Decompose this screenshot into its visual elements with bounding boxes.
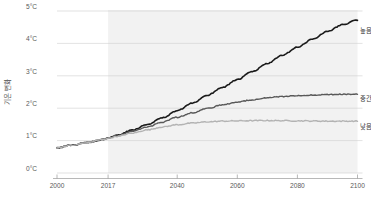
y-tick-label-5: 5°C: [26, 3, 37, 10]
chart-canvas: 0°C1°C2°C3°C4°C5°C 200020172040206020802…: [0, 0, 371, 202]
y-axis-title: 기온 변화: [3, 79, 12, 105]
y-tick-label-0: 0°C: [26, 165, 37, 172]
x-tick-label-2: 2040: [170, 182, 185, 189]
series-label-2: 낮음: [360, 122, 371, 131]
series-label-1: 중간: [360, 94, 371, 102]
y-tick-label-2: 2°C: [26, 100, 37, 107]
x-tick-label-5: 2100: [350, 182, 365, 189]
x-tick-label-1: 2017: [101, 182, 116, 189]
series-label-0: 높음: [360, 27, 371, 34]
y-tick-label-4: 4°C: [26, 35, 37, 42]
x-tick-label-0: 2000: [50, 182, 65, 189]
x-axis-tick-labels: 200020172040206020802100: [50, 182, 366, 189]
x-axis-line: [53, 175, 363, 179]
y-axis-title: 기온 변화: [3, 79, 12, 105]
x-tick-label-3: 2060: [230, 182, 245, 189]
y-axis-tick-labels: 0°C1°C2°C3°C4°C5°C: [26, 3, 37, 172]
series-inline-labels: 높음중간낮음: [360, 27, 371, 131]
x-tick-label-4: 2080: [290, 182, 305, 189]
y-tick-label-1: 1°C: [26, 132, 37, 139]
y-tick-label-3: 3°C: [26, 68, 37, 75]
temperature-projection-chart: 0°C1°C2°C3°C4°C5°C 200020172040206020802…: [0, 0, 371, 202]
